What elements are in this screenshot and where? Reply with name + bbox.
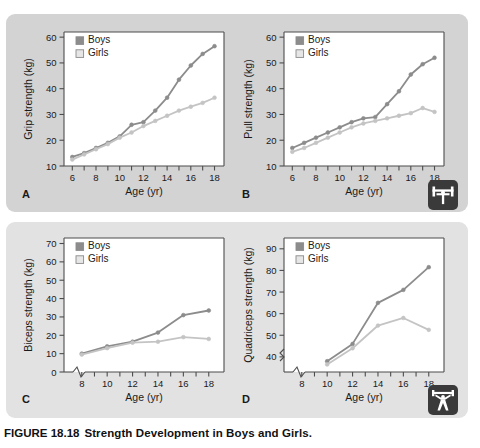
y-tick-label: 60: [46, 32, 57, 43]
data-point: [131, 341, 135, 345]
x-axis-B: 681012141618: [284, 166, 444, 183]
data-point: [189, 105, 193, 109]
x-tick-label: 14: [162, 172, 173, 183]
data-point: [385, 102, 389, 106]
y-tick-label: 30: [266, 109, 277, 120]
data-point: [177, 109, 181, 113]
legend-swatch-girls: [76, 256, 84, 264]
data-point: [290, 146, 294, 150]
data-point: [427, 265, 431, 269]
x-tick-label: 8: [299, 378, 304, 389]
y-axis-C: 010203040506070: [46, 238, 64, 377]
data-point: [362, 116, 366, 120]
legend-swatch-boys: [296, 243, 304, 251]
data-point: [401, 288, 405, 292]
data-point: [427, 328, 431, 332]
y-tick-label: 70: [266, 287, 277, 298]
data-point: [350, 125, 354, 129]
data-point: [314, 141, 318, 145]
x-tick-label: 12: [138, 172, 149, 183]
chart-svg-C: 01020304050607081012141618Age (yr)Biceps…: [18, 226, 233, 416]
data-point: [314, 136, 318, 140]
y-tick-label: 40: [266, 83, 277, 94]
legend-label-boys: Boys: [308, 34, 330, 45]
data-point: [409, 73, 413, 77]
x-tick-label: 16: [398, 378, 409, 389]
y-axis-D: 405060708090: [266, 243, 284, 362]
data-point: [165, 114, 169, 118]
x-tick-label: 12: [127, 378, 138, 389]
data-point: [373, 115, 377, 119]
data-point: [326, 131, 330, 135]
data-point: [130, 123, 134, 127]
x-tick-label: 16: [178, 378, 189, 389]
figure-caption-title: Strength Development in Boys and Girls.: [79, 427, 312, 439]
data-point: [421, 62, 425, 66]
data-point: [181, 313, 185, 317]
figure-caption-number: FIGURE 18.18: [4, 427, 79, 439]
legend-swatch-boys: [296, 37, 304, 45]
y-tick-label: 80: [266, 265, 277, 276]
legend-label-girls: Girls: [88, 253, 109, 264]
data-point: [130, 131, 134, 135]
y-tick-label: 50: [266, 57, 277, 68]
y-tick-label: 90: [266, 243, 277, 254]
legend-swatch-boys: [76, 243, 84, 251]
data-point: [302, 141, 306, 145]
y-tick-label: 60: [46, 256, 57, 267]
y-tick-label: 20: [46, 135, 57, 146]
x-axis-title: Age (yr): [345, 185, 382, 197]
x-tick-label: 8: [79, 378, 84, 389]
x-tick-label: 10: [102, 378, 113, 389]
weightlifter-icon: [428, 385, 458, 415]
data-point: [80, 353, 84, 357]
data-point: [207, 337, 211, 341]
data-point: [70, 158, 74, 162]
x-tick-label: 8: [93, 172, 98, 183]
panel-letter-d: D: [242, 393, 250, 405]
data-point: [397, 89, 401, 93]
legend-swatch-girls: [296, 50, 304, 58]
x-tick-label: 10: [114, 172, 125, 183]
x-tick-label: 18: [203, 378, 214, 389]
y-tick-label: 10: [266, 161, 277, 172]
data-point: [106, 142, 110, 146]
data-point: [351, 342, 355, 346]
x-tick-label: 12: [358, 172, 369, 183]
data-point: [201, 52, 205, 56]
y-tick-label: 50: [46, 275, 57, 286]
data-point: [105, 346, 109, 350]
y-tick-label: 30: [46, 109, 57, 120]
data-point: [153, 109, 157, 113]
x-tick-label: 16: [186, 172, 197, 183]
x-axis-title: Age (yr): [125, 185, 162, 197]
y-tick-label: 10: [46, 348, 57, 359]
y-tick-label: 20: [46, 330, 57, 341]
x-tick-label: 14: [382, 172, 393, 183]
data-point: [338, 125, 342, 129]
y-tick-label: 50: [46, 57, 57, 68]
data-point: [362, 122, 366, 126]
legend-label-girls: Girls: [88, 47, 109, 58]
chart-panel-a: 102030405060681012141618Age (yr)Grip str…: [18, 20, 233, 210]
chart-panel-b: 102030405060681012141618Age (yr)Pull str…: [238, 20, 453, 210]
data-point: [350, 120, 354, 124]
data-point: [326, 136, 330, 140]
figure-root: 102030405060681012141618Age (yr)Grip str…: [0, 0, 480, 448]
legend-label-boys: Boys: [308, 240, 330, 251]
x-tick-label: 6: [70, 172, 75, 183]
x-tick-label: 14: [373, 378, 384, 389]
x-tick-label: 6: [290, 172, 295, 183]
data-point: [181, 335, 185, 339]
legend-swatch-girls: [296, 256, 304, 264]
bench-press-icon: [428, 180, 458, 210]
panel-letter-b: B: [242, 188, 250, 200]
data-point: [433, 110, 437, 114]
y-axis-A: 102030405060: [46, 32, 64, 172]
data-point: [213, 96, 217, 100]
data-point: [213, 44, 217, 48]
chart-panel-c: 01020304050607081012141618Age (yr)Biceps…: [18, 226, 233, 416]
data-point: [302, 146, 306, 150]
legend-swatch-girls: [76, 50, 84, 58]
data-point: [142, 120, 146, 124]
